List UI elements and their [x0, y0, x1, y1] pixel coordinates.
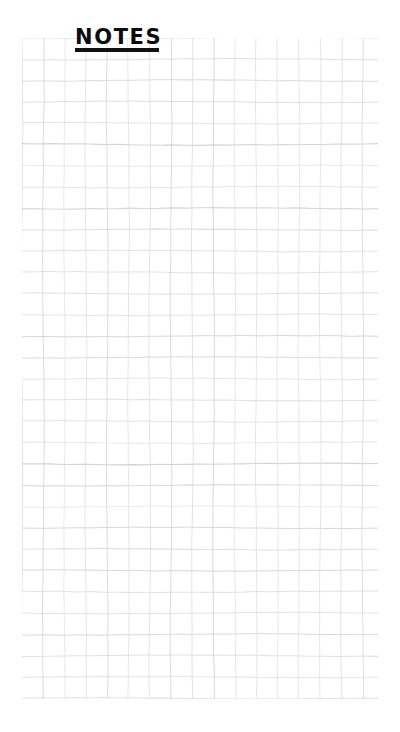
grid-line-horizontal	[22, 420, 378, 422]
grid-line-horizontal	[22, 612, 378, 614]
grid-line-horizontal	[22, 655, 378, 657]
grid-line-horizontal	[22, 271, 378, 273]
grid-line-vertical	[255, 38, 257, 699]
grid-line-vertical	[64, 38, 66, 699]
grid-line-vertical	[277, 38, 279, 699]
grid-line-horizontal	[22, 463, 378, 465]
notepad-page: NOTES	[0, 0, 400, 732]
grid-line-vertical	[213, 38, 215, 699]
grid-line-vertical	[191, 38, 193, 699]
grid-line-horizontal	[22, 229, 378, 231]
grid-line-vertical	[85, 38, 87, 699]
grid-line-horizontal	[22, 208, 378, 210]
grid-line-vertical	[106, 38, 108, 699]
grid-line-horizontal	[22, 314, 378, 316]
grid-line-horizontal	[22, 250, 378, 252]
grid-line-vertical	[362, 38, 364, 699]
grid-line-vertical	[170, 38, 172, 699]
grid-line-horizontal	[22, 378, 378, 380]
grid-line-horizontal	[22, 484, 378, 486]
grid-line-vertical	[319, 38, 321, 699]
grid-line-vertical	[341, 38, 343, 699]
grid-line-horizontal	[22, 697, 378, 699]
grid-line-horizontal	[22, 144, 378, 146]
grid-line-vertical	[149, 38, 151, 699]
grid-line-horizontal	[22, 101, 378, 103]
grid-line-vertical	[234, 38, 236, 699]
grid-lines-svg	[22, 38, 378, 699]
graph-paper-grid	[22, 38, 378, 699]
grid-line-horizontal	[22, 122, 378, 124]
grid-line-horizontal	[22, 399, 378, 401]
grid-line-horizontal	[22, 58, 378, 60]
grid-line-vertical	[298, 38, 300, 699]
grid-line-horizontal	[22, 357, 378, 359]
grid-line-horizontal	[22, 634, 378, 636]
grid-line-horizontal	[22, 548, 378, 550]
grid-line-horizontal	[22, 38, 378, 39]
page-body-text	[0, 0, 1, 1]
grid-line-horizontal	[22, 442, 378, 444]
grid-line-vertical	[22, 38, 23, 699]
grid-line-horizontal	[22, 527, 378, 529]
grid-line-horizontal	[22, 293, 378, 295]
grid-line-horizontal	[22, 80, 378, 82]
grid-line-horizontal	[22, 335, 378, 337]
grid-line-horizontal	[22, 676, 378, 677]
grid-line-horizontal	[22, 570, 378, 572]
grid-line-vertical	[42, 38, 44, 699]
grid-line-horizontal	[22, 165, 378, 166]
grid-line-horizontal	[22, 186, 378, 188]
grid-line-vertical	[128, 38, 130, 699]
grid-line-horizontal	[22, 506, 378, 508]
grid-line-horizontal	[22, 591, 378, 593]
